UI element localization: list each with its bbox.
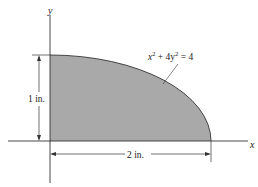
curve-equation: x2 + 4y2 = 4 <box>147 50 193 62</box>
width-label: 2 in. <box>127 150 144 160</box>
arrow-right-icon <box>205 152 211 156</box>
arrow-down-icon <box>37 135 41 141</box>
arrow-up-icon <box>37 55 41 61</box>
arrow-left-icon <box>50 152 56 156</box>
y-axis-label: y <box>47 5 53 16</box>
x-axis-label: x <box>249 139 255 150</box>
diagram: y x 1 in. 2 in. x2 + 4y2 = 4 <box>0 0 258 187</box>
height-label: 1 in. <box>28 94 45 104</box>
ellipse-quadrant-figure: y x 1 in. 2 in. x2 + 4y2 = 4 <box>0 0 258 187</box>
leader-line <box>163 64 178 84</box>
shaded-area <box>50 55 211 141</box>
